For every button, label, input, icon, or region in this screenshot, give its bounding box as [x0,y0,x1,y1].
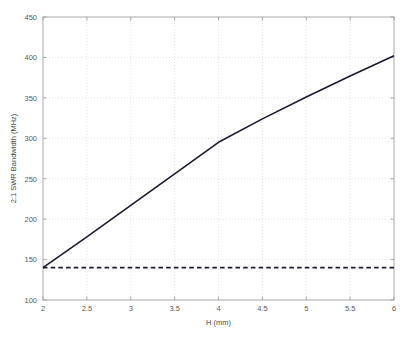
line-chart: 22.533.544.555.56 1001502002503003504004… [0,0,415,344]
figure-canvas: 22.533.544.555.56 1001502002503003504004… [0,0,415,344]
y-axis-label: 2:1 SWR Bandwidth (MHz) [9,113,18,203]
y-tick-label: 200 [24,215,37,224]
x-tick-label: 4 [216,304,220,313]
x-tick-label: 6 [392,304,396,313]
x-tick-label: 2.5 [82,304,92,313]
x-tick-label: 5 [304,304,308,313]
x-tick-label: 3.5 [169,304,179,313]
chart-background [0,0,415,344]
y-tick-label: 400 [24,53,37,62]
x-tick-label: 2 [41,304,45,313]
y-tick-label: 250 [24,175,37,184]
y-tick-label: 100 [24,296,37,305]
y-tick-label: 300 [24,134,37,143]
y-tick-label: 150 [24,255,37,264]
y-tick-label: 350 [24,94,37,103]
x-tick-label: 4.5 [257,304,267,313]
x-tick-label: 3 [129,304,133,313]
y-tick-label: 450 [24,13,37,22]
x-tick-label: 5.5 [345,304,355,313]
x-axis-label: H (mm) [206,318,231,327]
